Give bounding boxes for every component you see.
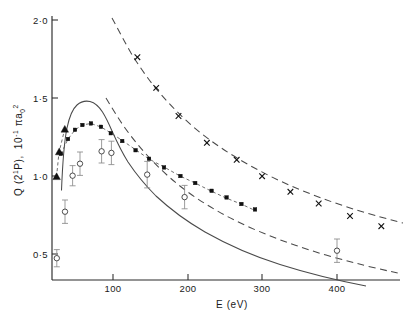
y-tick-label-1-5: 1·5: [33, 93, 48, 104]
cross-marker: [347, 213, 353, 219]
data-point-with-error-bar: [99, 140, 105, 163]
x-tick-label-100: 100: [104, 283, 121, 294]
axis-lines: [52, 16, 400, 280]
open-circle-marker: [62, 209, 67, 214]
chart-svg: 2·0 1·5 1·0 0·5 100 200 300 400 E (eV) Q…: [0, 0, 411, 312]
open-circle-marker: [70, 173, 75, 178]
x-axis-tick-labels: 100 200 300 400: [104, 283, 345, 294]
cross-marker: [135, 54, 141, 60]
data-point-with-error-bar: [62, 200, 68, 223]
square-marker: [193, 181, 197, 185]
y-tick-label-0-5: 0·5: [33, 249, 48, 260]
curve-born: [112, 18, 403, 223]
square-marker: [162, 166, 166, 170]
square-marker: [120, 139, 124, 143]
data-point-with-error-bar: [77, 152, 83, 175]
square-marker: [147, 157, 151, 161]
square-marker: [210, 189, 214, 193]
square-marker: [66, 137, 70, 141]
square-marker: [225, 196, 229, 200]
open-circle-marker: [182, 194, 187, 199]
open-circle-marker: [77, 161, 82, 166]
open-circle-marker: [145, 172, 150, 177]
open-circle-marker: [109, 150, 114, 155]
square-marker: [81, 123, 85, 127]
y-axis-tick-labels: 2·0 1·5 1·0 0·5: [33, 15, 48, 260]
cross-marker: [259, 173, 265, 179]
cross-marker: [316, 201, 322, 207]
y-title-q: Q (2: [13, 174, 24, 196]
y-title-a-sup: 2: [12, 104, 19, 108]
y-tick-label-2-0: 2·0: [33, 15, 48, 26]
data-point-with-error-bar: [182, 185, 188, 208]
square-marker: [134, 148, 138, 152]
cross-marker: [176, 113, 182, 119]
chart-figure: 2·0 1·5 1·0 0·5 100 200 300 400 E (eV) Q…: [0, 0, 411, 312]
born-cross-markers: [135, 54, 385, 229]
y-title-pi-a: πa: [13, 113, 24, 130]
square-marker: [179, 174, 183, 178]
y-title-q-mid: P),: [13, 155, 24, 170]
x-axis-title: E (eV): [216, 299, 248, 310]
square-marker: [109, 131, 113, 135]
y-axis-ticks: [52, 20, 58, 254]
square-marker: [240, 202, 244, 206]
square-marker: [89, 122, 93, 126]
x-tick-label-400: 400: [328, 283, 345, 294]
open-circle-marker: [54, 256, 59, 261]
square-marker: [73, 128, 77, 132]
y-title-ten: 10: [13, 137, 24, 149]
cross-marker: [288, 189, 294, 195]
square-marker: [99, 125, 103, 129]
cross-marker: [204, 140, 210, 146]
y-title-a-sub: 0: [19, 108, 26, 112]
data-point-with-error-bar: [54, 250, 60, 267]
y-title-ten-sup: -1: [12, 130, 19, 137]
data-point-with-error-bar: [108, 141, 114, 164]
x-tick-label-200: 200: [179, 283, 196, 294]
cross-marker: [153, 85, 159, 91]
open-circle-marker: [334, 248, 339, 253]
open-circle-marker: [99, 149, 104, 154]
curve-close-coupling: [62, 101, 367, 286]
svg-text:Q (21P),10-1 πa02: Q (21P),10-1 πa02: [12, 104, 25, 196]
square-marker: [253, 208, 257, 212]
cross-marker: [379, 223, 385, 229]
x-tick-label-300: 300: [253, 283, 270, 294]
data-point-with-error-bar: [70, 166, 76, 186]
curve-distorted-wave: [106, 98, 398, 273]
x-axis-ticks: [113, 274, 337, 280]
experiment-data-points: [54, 140, 340, 267]
y-axis-title: Q (21P),10-1 πa02: [12, 104, 25, 196]
y-tick-label-1-0: 1·0: [33, 171, 48, 182]
